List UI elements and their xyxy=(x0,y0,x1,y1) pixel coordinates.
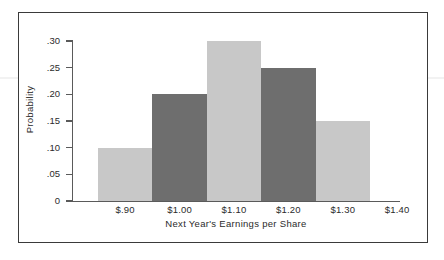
histogram-bar xyxy=(98,148,152,201)
x-axis-tick-label: $1.20 xyxy=(258,204,318,215)
histogram-bar xyxy=(261,68,315,201)
x-axis-tick-label: $1.30 xyxy=(313,204,373,215)
y-axis-tick xyxy=(66,120,73,121)
y-axis-tick-label: .30 xyxy=(26,35,60,46)
y-axis-tick xyxy=(66,67,73,68)
y-axis-tick xyxy=(66,147,73,148)
histogram-bar xyxy=(152,94,206,201)
y-axis-tick-label: 0 xyxy=(26,195,60,206)
y-axis-tick-label: .05 xyxy=(26,168,60,179)
y-axis-tick xyxy=(66,40,73,41)
x-axis-tick-label: $1.00 xyxy=(150,204,210,215)
y-axis-tick xyxy=(66,200,73,201)
x-axis-line xyxy=(72,201,400,202)
x-axis-title: Next Year's Earnings per Share xyxy=(72,218,400,229)
y-axis-tick xyxy=(66,94,73,95)
x-axis-tick-label: $1.10 xyxy=(204,204,264,215)
y-axis-tick xyxy=(66,174,73,175)
x-axis-tick-label: $1.40 xyxy=(367,204,427,215)
histogram-bar xyxy=(316,121,370,201)
x-axis-tick-label: $.90 xyxy=(95,204,155,215)
y-axis-title: Probability xyxy=(24,65,35,155)
histogram-bar xyxy=(207,41,261,201)
histogram-plot: .30.25.20.15.10.050 Probability $.90$1.0… xyxy=(0,0,444,260)
